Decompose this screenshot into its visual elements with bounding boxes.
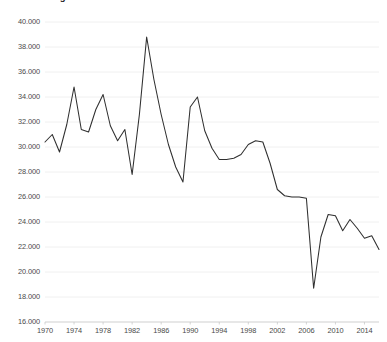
x-axis-tick-label: 1982 — [116, 326, 148, 335]
y-axis-tick-label: 38.000 — [2, 42, 40, 51]
y-axis-tick-label: 20.000 — [2, 267, 40, 276]
y-axis-tick-label: 30.000 — [2, 142, 40, 151]
y-axis-tick-label: 28.000 — [2, 167, 40, 176]
gridlines — [45, 22, 379, 322]
y-axis-tick-label: 18.000 — [2, 292, 40, 301]
y-axis-tick-label: 22.000 — [2, 242, 40, 251]
x-axis-tick-label: 1974 — [58, 326, 90, 335]
x-axis-tick-label: 2010 — [319, 326, 351, 335]
chart-plot-area — [0, 0, 387, 342]
x-axis-tick-label: 1994 — [203, 326, 235, 335]
y-axis-tick-label: 32.000 — [2, 117, 40, 126]
x-axis-tick-label: 1978 — [87, 326, 119, 335]
x-axis-tick-label: 2014 — [348, 326, 380, 335]
x-axis-tick-label: 1998 — [232, 326, 264, 335]
x-axis-tick-label: 2002 — [261, 326, 293, 335]
x-axis-tick-label: 1986 — [145, 326, 177, 335]
data-line-series-wert — [45, 37, 379, 288]
x-axis-tick-label: 1970 — [29, 326, 61, 335]
y-axis-tick-label: 36.000 — [2, 67, 40, 76]
y-axis-tick-label: 40.000 — [2, 17, 40, 26]
y-axis-tick-label: 34.000 — [2, 92, 40, 101]
chart-container: Volkszählung in Zahlen 40.00038.00036.00… — [0, 0, 387, 342]
y-axis-tick-label: 24.000 — [2, 217, 40, 226]
x-axis-tick-label: 2006 — [290, 326, 322, 335]
y-axis-tick-label: 26.000 — [2, 192, 40, 201]
x-axis-tick-label: 1990 — [174, 326, 206, 335]
